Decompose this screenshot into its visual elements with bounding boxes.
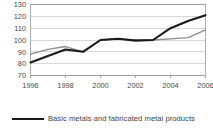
x-tick-label-2002: 2002 (127, 81, 143, 90)
series-line-secondary (31, 30, 206, 54)
y-tick-label-120: 120 (14, 12, 26, 21)
line-chart: 708090100110120130 199619982000200220042… (0, 0, 213, 133)
x-tick-label-2006: 2006 (197, 81, 213, 90)
chart-legend: Basic metals and fabricated metal produc… (0, 104, 213, 133)
x-axis-tick-labels: 199619982000200220042006 (22, 81, 213, 90)
x-tick-label-1998: 1998 (57, 81, 73, 90)
y-gridlines (31, 5, 206, 76)
x-tick-label-2004: 2004 (162, 81, 178, 90)
plot-area: 708090100110120130 199619982000200220042… (0, 0, 213, 104)
y-tick-label-130: 130 (14, 0, 26, 9)
y-axis-tick-labels: 708090100110120130 (14, 0, 26, 80)
y-tick-label-110: 110 (14, 24, 26, 33)
x-tick-label-1996: 1996 (22, 81, 38, 90)
y-tick-label-70: 70 (18, 71, 26, 80)
y-tick-label-100: 100 (14, 36, 26, 45)
legend-label-basic-metals: Basic metals and fabricated metal produc… (48, 114, 195, 123)
chart-canvas: 708090100110120130 199619982000200220042… (0, 0, 213, 104)
y-tick-label-90: 90 (18, 48, 26, 57)
y-tick-label-80: 80 (18, 59, 26, 68)
legend-line-swatch (12, 118, 44, 120)
x-tick-label-2000: 2000 (92, 81, 108, 90)
